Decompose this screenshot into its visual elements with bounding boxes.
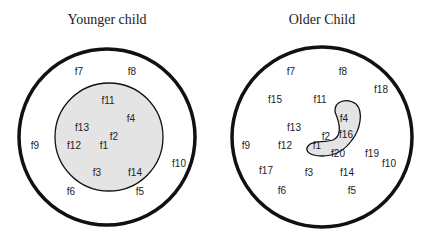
node-label: f1 [313, 140, 321, 151]
node-label: f10 [172, 158, 186, 169]
node-label: f4 [340, 113, 348, 124]
node-label: f9 [31, 140, 39, 151]
node-label: f12 [278, 140, 292, 151]
node-label: f2 [110, 131, 118, 142]
node-label: f8 [128, 66, 136, 77]
node-label: f14 [128, 167, 142, 178]
diagram-canvas [0, 0, 430, 238]
node-label: f12 [67, 140, 81, 151]
node-label: f11 [313, 94, 326, 105]
node-label: f13 [287, 122, 301, 133]
node-label: f17 [259, 165, 273, 176]
node-label: f16 [339, 129, 353, 140]
node-label: f7 [287, 66, 295, 77]
older-child-title: Older Child [289, 12, 356, 28]
node-label: f18 [374, 84, 388, 95]
node-label: f11 [101, 95, 114, 106]
node-label: f13 [75, 122, 89, 133]
node-label: f4 [127, 113, 135, 124]
node-label: f2 [322, 131, 330, 142]
node-label: f3 [93, 167, 101, 178]
node-label: f20 [331, 148, 345, 159]
node-label: f19 [365, 148, 379, 159]
node-label: f8 [339, 66, 347, 77]
node-label: f3 [305, 167, 313, 178]
node-label: f7 [75, 66, 83, 77]
node-label: f15 [268, 94, 282, 105]
node-label: f5 [136, 186, 144, 197]
node-label: f5 [348, 185, 356, 196]
node-label: f9 [242, 140, 250, 151]
node-label: f14 [340, 167, 354, 178]
node-label: f6 [67, 186, 75, 197]
node-label: f6 [278, 185, 286, 196]
node-label: f10 [382, 158, 396, 169]
younger-child-title: Younger child [67, 12, 146, 28]
node-label: f1 [100, 140, 108, 151]
